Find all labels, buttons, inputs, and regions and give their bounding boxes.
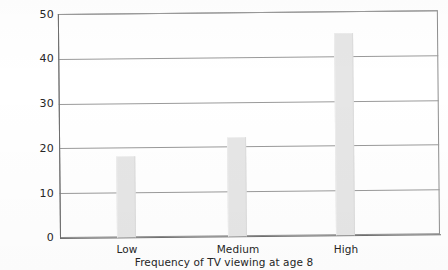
y-tick-label-0: 0 bbox=[2, 232, 54, 243]
chart-plot-skew-wrapper bbox=[0, 0, 448, 270]
y-tick-label-30: 30 bbox=[2, 98, 54, 109]
bar-low bbox=[116, 157, 136, 238]
y-tick-label-50: 50 bbox=[2, 9, 54, 20]
bar-medium bbox=[227, 138, 247, 237]
x-tick-label-medium: Medium bbox=[206, 243, 270, 255]
y-tick-label-40: 40 bbox=[2, 53, 54, 64]
x-axis-title: Frequency of TV viewing at age 8 bbox=[0, 256, 448, 268]
y-tick-label-20: 20 bbox=[2, 143, 54, 154]
plot-area-frame bbox=[58, 10, 440, 238]
bar-high bbox=[334, 34, 355, 236]
x-tick-label-low: Low bbox=[97, 243, 157, 255]
y-tick-label-10: 10 bbox=[2, 188, 54, 199]
bar-chart-figure: 50 40 30 20 10 0 Low Medium High Frequen… bbox=[0, 0, 448, 270]
x-tick-label-high: High bbox=[316, 243, 376, 255]
